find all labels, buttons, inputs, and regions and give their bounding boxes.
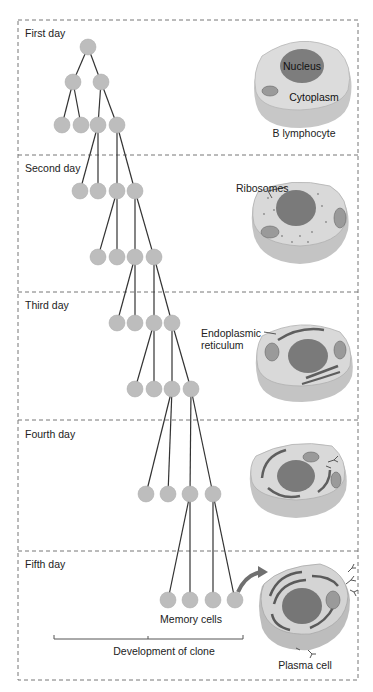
memory-cell-node (205, 592, 221, 608)
node (127, 183, 143, 199)
node (160, 486, 176, 502)
node (127, 315, 143, 331)
day2-cell-illustration (252, 182, 349, 264)
node (109, 183, 125, 199)
day3-cell-illustration (256, 325, 353, 402)
development-of-clone-label: Development of clone (113, 645, 215, 657)
node (127, 249, 143, 265)
node (182, 486, 198, 502)
mitochondrion-icon (326, 591, 340, 609)
node (90, 117, 106, 133)
node (65, 74, 81, 90)
nucleus-label: Nucleus (283, 60, 321, 72)
node (73, 117, 89, 133)
er-label-line2: reticulum (201, 339, 244, 351)
node (138, 486, 154, 502)
node (146, 249, 162, 265)
memory-cells-label: Memory cells (160, 613, 222, 625)
memory-cell-node (227, 592, 243, 608)
mitochondrion-icon (265, 343, 279, 361)
memory-cell-node (160, 592, 176, 608)
node (109, 249, 125, 265)
node (93, 74, 109, 90)
day-label-second: Second day (25, 162, 80, 174)
node (80, 39, 96, 55)
plasma-cell-caption: Plasma cell (278, 659, 332, 671)
node (146, 315, 162, 331)
arrow-head-icon (258, 566, 268, 578)
clone-bracket (54, 635, 243, 639)
cytoplasm-label: Cytoplasm (289, 91, 339, 103)
plasma-cell-illustration (259, 564, 358, 658)
clone-diagram (0, 0, 373, 692)
mitochondrion-icon (261, 226, 279, 238)
ribosomes-label: Ribosomes (236, 182, 289, 194)
mitochondrion-icon (303, 452, 319, 462)
clone-nodes (54, 39, 243, 608)
b-lymphocyte-caption: B lymphocyte (272, 127, 335, 139)
day-label-fourth: Fourth day (25, 428, 75, 440)
node (164, 315, 180, 331)
node (72, 183, 88, 199)
er-label-line1: Endoplasmic (201, 327, 261, 339)
node (146, 381, 162, 397)
b-lymphocyte-illustration (254, 41, 352, 128)
node (164, 381, 180, 397)
node (54, 117, 70, 133)
node (127, 381, 143, 397)
node (205, 486, 221, 502)
node (109, 315, 125, 331)
day-label-fifth: Fifth day (25, 558, 65, 570)
mitochondrion-icon (262, 86, 278, 96)
node (109, 117, 125, 133)
node (90, 249, 106, 265)
node (183, 381, 199, 397)
day-label-first: First day (25, 27, 65, 39)
mitochondrion-icon (334, 341, 346, 359)
mitochondrion-icon (334, 208, 346, 228)
day-label-third: Third day (25, 299, 69, 311)
day4-cell-illustration (250, 444, 347, 518)
node (90, 183, 106, 199)
memory-cell-node (182, 592, 198, 608)
mitochondrion-icon (331, 472, 341, 488)
